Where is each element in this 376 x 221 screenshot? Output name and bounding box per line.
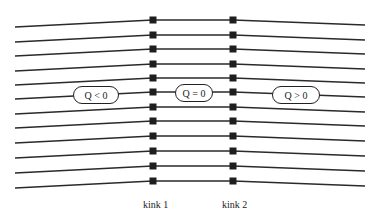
kink-marker (150, 61, 157, 68)
kink-marker (230, 178, 237, 185)
lattice-diagram (0, 0, 376, 221)
kink-marker (150, 163, 157, 170)
kink-marker (150, 148, 157, 155)
kink-marker (230, 133, 237, 140)
region-label-q-positive: Q > 0 (272, 86, 320, 104)
kink-marker (150, 178, 157, 185)
kink-1-label: kink 1 (143, 199, 168, 210)
kink-marker (230, 118, 237, 125)
kink-marker (150, 118, 157, 125)
kink-marker (150, 46, 157, 53)
region-label-q-zero: Q = 0 (175, 84, 213, 102)
region-text: Q < 0 (85, 90, 108, 101)
field-line (15, 107, 365, 114)
field-lines (15, 20, 365, 188)
kink-marker (230, 89, 237, 96)
kink-marker (230, 17, 237, 24)
region-label-q-negative: Q < 0 (73, 86, 119, 104)
kink-marker (230, 61, 237, 68)
field-line (15, 166, 365, 173)
kink-marker (230, 32, 237, 39)
kink-marker (230, 104, 237, 111)
kink-2-label: kink 2 (222, 199, 247, 210)
field-line (15, 151, 365, 158)
field-line (15, 64, 365, 71)
field-line (15, 136, 365, 143)
field-line (15, 20, 365, 27)
kink-marker (230, 46, 237, 53)
field-line (15, 49, 365, 56)
kink-marker (150, 75, 157, 82)
region-text: Q > 0 (285, 90, 308, 101)
kink-marker (230, 75, 237, 82)
kink-marker (150, 32, 157, 39)
kink-marker (150, 104, 157, 111)
kink-marker (230, 163, 237, 170)
kink-marker (230, 148, 237, 155)
kink-marker (150, 89, 157, 96)
kink-marker (150, 17, 157, 24)
field-line (15, 181, 365, 188)
field-line (15, 35, 365, 42)
kink-marker (150, 133, 157, 140)
region-text: Q = 0 (183, 88, 206, 99)
field-line (15, 121, 365, 128)
